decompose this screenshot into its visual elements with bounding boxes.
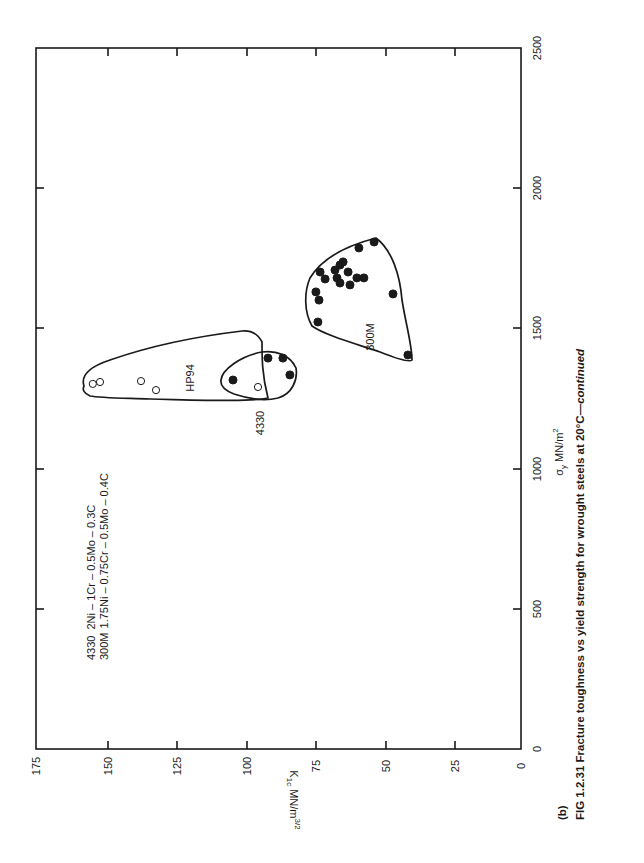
k1c-tick-100: 100 xyxy=(241,757,253,775)
data-point-300m xyxy=(404,351,412,359)
data-point-300m xyxy=(315,296,323,304)
sigma-axis-title: σy MN/m2 xyxy=(551,428,568,476)
data-point-4330 xyxy=(229,376,237,384)
sigma-tick-1000: 1000 xyxy=(531,457,543,481)
data-point-hp94 xyxy=(89,380,96,387)
data-point-300m xyxy=(389,290,397,298)
data-point-300m xyxy=(346,281,354,289)
k1c-axis-title: K1c MN/m3/2 xyxy=(285,770,302,830)
data-point-300m xyxy=(312,288,320,296)
hp94-label: HP94 xyxy=(184,364,196,392)
k1c-tick-125: 125 xyxy=(171,757,183,775)
data-point-300m xyxy=(314,318,322,326)
data-point-300m xyxy=(316,268,324,276)
data-points xyxy=(89,238,412,394)
300m-label: 300M xyxy=(364,323,376,351)
data-point-hp94 xyxy=(96,378,103,385)
k1c-tick-0: 0 xyxy=(515,763,527,769)
data-point-4330 xyxy=(286,371,294,379)
k1c-tick-75: 75 xyxy=(310,760,322,772)
legend-4330: 43302Ni – 1Cr – 0.5Mo – 0.3C xyxy=(85,505,97,660)
legend: 43302Ni – 1Cr – 0.5Mo – 0.3C 300M1.75Ni … xyxy=(85,473,110,660)
sigma-tick-2500: 2500 xyxy=(531,36,543,60)
data-point-hp94 xyxy=(137,378,144,385)
hp94-outline xyxy=(83,331,268,401)
k1c-tick-175: 175 xyxy=(30,757,42,775)
k1c-tick-50: 50 xyxy=(380,760,392,772)
k1c-tick-25: 25 xyxy=(449,760,461,772)
data-point-4330 xyxy=(264,354,272,362)
sigma-tick-1500: 1500 xyxy=(531,316,543,340)
data-point-300m xyxy=(370,238,378,246)
sigma-tick-500: 500 xyxy=(531,600,543,618)
data-point-300m xyxy=(336,279,344,287)
sigma-tick-0: 0 xyxy=(531,746,543,752)
4330-label: 4330 xyxy=(254,411,266,435)
k1c-tick-labels: 0 25 50 75 100 125 150 175 xyxy=(30,757,527,775)
legend-300m: 300M1.75Ni – 0.75Cr – 0.5Mo – 0.4C xyxy=(98,473,110,660)
data-point-300m xyxy=(344,268,352,276)
data-point-hp94 xyxy=(254,383,261,390)
figure-caption: FIG 1.2.31 Fracture toughness vs yield s… xyxy=(574,348,586,820)
data-point-300m xyxy=(321,275,329,283)
panel-label: (b) xyxy=(556,805,568,820)
scatter-chart: 0 25 50 75 100 125 150 175 0 500 1000 15… xyxy=(0,0,644,863)
sigma-tick-2000: 2000 xyxy=(531,176,543,200)
sigma-tick-labels: 0 500 1000 1500 2000 2500 xyxy=(531,36,543,752)
data-point-300m xyxy=(355,244,363,252)
k1c-tick-150: 150 xyxy=(102,757,114,775)
data-point-4330 xyxy=(279,354,287,362)
data-point-hp94 xyxy=(152,387,159,394)
chart-page: 0 25 50 75 100 125 150 175 0 500 1000 15… xyxy=(0,0,644,863)
data-point-300m xyxy=(336,261,344,269)
data-point-300m xyxy=(360,274,368,282)
